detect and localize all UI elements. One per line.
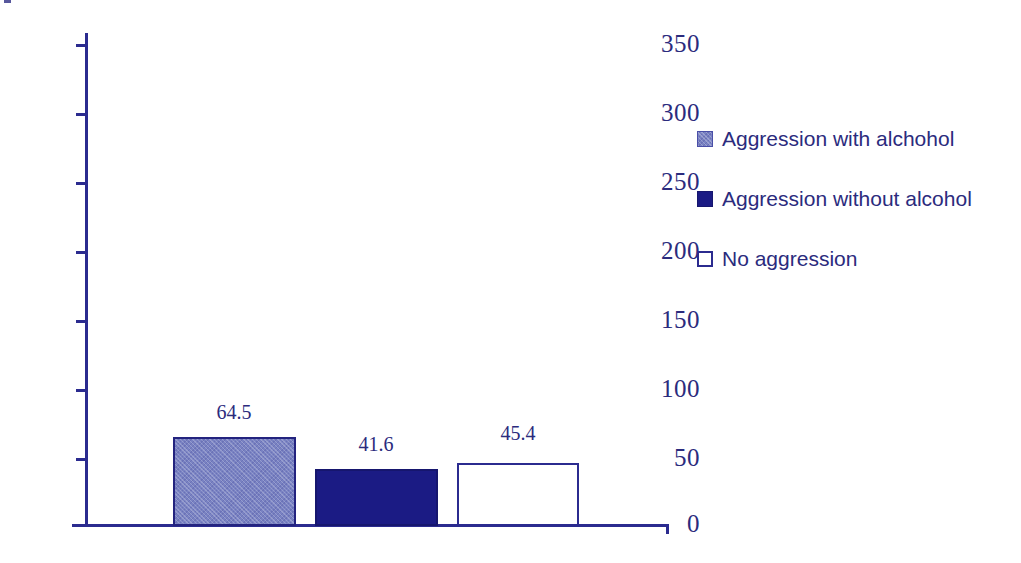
bar-label-no-aggression: 45.4 — [458, 423, 578, 443]
bar-no-aggression — [457, 463, 579, 526]
y-tick-200 — [76, 251, 88, 254]
bar-aggression-with-alcohol — [173, 437, 296, 526]
y-tick-label-350: 350 — [632, 31, 700, 56]
y-tick-label-0: 0 — [632, 511, 700, 536]
y-tick-350 — [76, 44, 88, 47]
y-tick-label-50: 50 — [632, 445, 700, 470]
bar-label-aggression-with-alcohol: 64.5 — [174, 402, 294, 422]
legend-item-no-aggression: No aggression — [697, 248, 857, 269]
y-tick-0 — [72, 524, 89, 527]
bar-chart-figure: 350 300 250 200 150 100 50 0 64.5 41.6 4… — [0, 0, 1021, 563]
y-tick-label-150: 150 — [632, 307, 700, 332]
bar-aggression-without-alcohol — [315, 469, 438, 526]
legend-label-aggression-with-alcohol: Aggression with alchohol — [722, 128, 954, 149]
plot-area: 350 300 250 200 150 100 50 0 64.5 41.6 4… — [0, 0, 700, 563]
y-tick-300 — [76, 113, 88, 116]
bar-label-aggression-without-alcohol: 41.6 — [316, 434, 436, 454]
hatched-square-icon — [697, 131, 713, 147]
y-tick-250 — [76, 182, 88, 185]
legend-item-aggression-without-alcohol: Aggression without alcohol — [697, 188, 972, 209]
y-axis-line — [85, 33, 88, 527]
y-tick-100 — [76, 389, 88, 392]
legend-item-aggression-with-alcohol: Aggression with alchohol — [697, 128, 954, 149]
filled-square-icon — [697, 191, 713, 207]
legend-label-no-aggression: No aggression — [722, 248, 857, 269]
y-tick-label-200: 200 — [632, 238, 700, 263]
y-tick-150 — [76, 320, 88, 323]
y-tick-label-250: 250 — [632, 169, 700, 194]
y-tick-label-300: 300 — [632, 100, 700, 125]
y-tick-50 — [76, 458, 88, 461]
legend-label-aggression-without-alcohol: Aggression without alcohol — [722, 188, 972, 209]
y-tick-label-100: 100 — [632, 376, 700, 401]
outlined-square-icon — [697, 251, 713, 267]
